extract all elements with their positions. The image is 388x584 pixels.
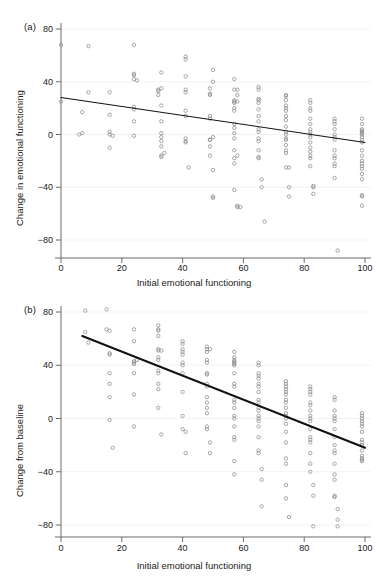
panel-b: (b) Change from baseline 80400−40−800204… [0, 292, 388, 584]
svg-text:40: 40 [43, 77, 53, 87]
svg-text:−80: −80 [38, 520, 53, 530]
svg-text:0: 0 [58, 263, 63, 273]
svg-text:80: 80 [299, 543, 309, 553]
svg-text:40: 40 [178, 263, 188, 273]
svg-text:−40: −40 [38, 182, 53, 192]
svg-text:40: 40 [178, 543, 188, 553]
svg-text:0: 0 [58, 543, 63, 553]
panel-b-x-axis-label: Initial emotional functioning [0, 560, 388, 571]
svg-text:80: 80 [299, 263, 309, 273]
svg-text:0: 0 [48, 414, 53, 424]
svg-text:80: 80 [43, 307, 53, 317]
panel-a-x-axis-label: Initial emotional functioning [0, 277, 388, 288]
svg-text:−80: −80 [38, 235, 53, 245]
svg-text:60: 60 [238, 543, 248, 553]
svg-text:100: 100 [357, 543, 372, 553]
panel-b-plot: 80400−40−80020406080100 [0, 292, 388, 584]
svg-text:60: 60 [238, 263, 248, 273]
svg-text:−40: −40 [38, 467, 53, 477]
panel-a-plot: 80400−40−80020406080100 [0, 0, 388, 292]
svg-text:80: 80 [43, 24, 53, 34]
svg-text:40: 40 [43, 360, 53, 370]
figure-container: (a) Change in emotional functioning 8040… [0, 0, 388, 584]
svg-text:20: 20 [117, 263, 127, 273]
svg-text:100: 100 [357, 263, 372, 273]
regression-line [82, 336, 365, 448]
svg-text:20: 20 [117, 543, 127, 553]
data-points [59, 43, 363, 252]
panel-a: (a) Change in emotional functioning 8040… [0, 0, 388, 292]
data-points [84, 308, 364, 528]
svg-text:0: 0 [48, 130, 53, 140]
